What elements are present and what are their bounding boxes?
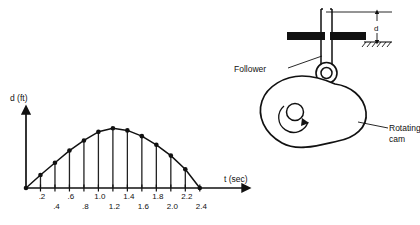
- x-tick-label-lower: 1.6: [138, 202, 150, 211]
- x-tick-label-upper: 1.0: [94, 192, 106, 201]
- cam-shaft-hole: [287, 104, 304, 121]
- chart-data-point: [53, 161, 58, 166]
- follower-label-layer: Follower: [232, 58, 342, 98]
- y-axis-label: d (ft): [10, 93, 28, 103]
- x-tick-label-upper: 2.2: [181, 192, 193, 201]
- figure-root: d (ft) t (sec) .2.61.01.41.82.2.4.81.21.…: [0, 0, 420, 225]
- cam-follower-mechanism: d Rotating cam: [240, 0, 420, 225]
- follower-label: Follower: [234, 64, 266, 74]
- x-tick-label-lower: 1.2: [109, 202, 121, 211]
- ground-hatch-icon: [362, 42, 391, 47]
- x-tick-label-lower: .4: [53, 202, 60, 211]
- chart-data-point: [183, 167, 188, 172]
- chart-data-point: [82, 138, 87, 143]
- x-tick-label-lower: 2.4: [196, 202, 208, 211]
- x-tick-label-upper: .6: [68, 192, 75, 201]
- chart-plot-layer: [24, 126, 202, 190]
- x-tick-label-upper: 1.8: [152, 192, 164, 201]
- chart-data-point: [125, 128, 130, 133]
- chart-data-point: [169, 153, 174, 158]
- chart-data-point: [67, 148, 72, 153]
- displacement-chart: d (ft) t (sec) .2.61.01.41.82.2.4.81.21.…: [0, 0, 260, 225]
- chart-data-point: [24, 186, 29, 191]
- cam-label-line1: Rotating: [389, 123, 420, 133]
- chart-data-point: [154, 143, 159, 148]
- guide-beam-right: [330, 32, 366, 40]
- displacement-label: d: [374, 24, 378, 33]
- x-tick-label-lower: .8: [82, 202, 89, 211]
- x-tick-label-upper: 1.4: [123, 192, 135, 201]
- chart-data-point: [140, 134, 145, 139]
- guide-beam-left: [287, 32, 325, 40]
- x-tick-label-lower: 2.0: [167, 202, 179, 211]
- chart-data-point: [96, 130, 101, 135]
- cam-label-line2: cam: [389, 134, 405, 144]
- x-tick-label-upper: .2: [39, 192, 46, 201]
- chart-data-point: [38, 173, 43, 178]
- chart-data-point: [111, 126, 116, 131]
